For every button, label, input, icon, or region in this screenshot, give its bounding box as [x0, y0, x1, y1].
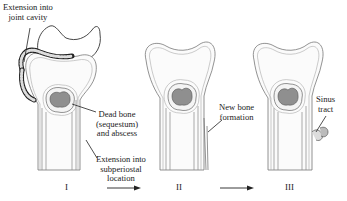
label-dead-bone: Dead bone (sequestum) and abscess [96, 110, 138, 139]
stage-label-2: II [176, 182, 182, 192]
sequestrum-1 [50, 92, 70, 107]
stage-label-1: I [65, 182, 68, 192]
label-subperiosteal: Extension into subperiostal location [96, 155, 146, 184]
label-new-bone: New bone formation [219, 103, 254, 122]
arrow-stage-1-to-2 [107, 186, 141, 191]
label-sinus-tract: Sinus tract [316, 95, 335, 114]
osteomyelitis-diagram [0, 0, 347, 201]
stage-1-bone [21, 26, 100, 170]
sequestrum-2 [172, 88, 192, 105]
stage-label-3: III [285, 182, 294, 192]
label-joint-cavity: Extension into joint cavity [3, 3, 53, 22]
arrow-stage-2-to-3 [220, 186, 254, 191]
sequestrum-3 [278, 88, 298, 105]
stage-2-bone [145, 42, 215, 170]
